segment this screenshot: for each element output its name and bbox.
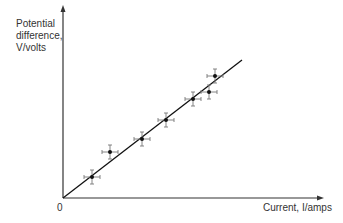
y-axis-label-line-1: Potential <box>16 18 63 30</box>
x-axis-label: Current, I/amps <box>263 202 332 213</box>
data-point <box>207 69 223 83</box>
data-points <box>84 69 223 184</box>
data-point <box>201 85 217 99</box>
x-axis-arrow-icon <box>317 196 324 201</box>
data-point <box>158 113 174 127</box>
y-axis-label: Potential difference, V/volts <box>16 18 63 54</box>
data-point <box>134 132 150 146</box>
y-axis-arrow-icon <box>61 5 66 12</box>
origin-label: 0 <box>57 202 63 213</box>
y-axis-label-line-3: V/volts <box>16 42 63 54</box>
y-axis-label-line-2: difference, <box>16 30 63 42</box>
